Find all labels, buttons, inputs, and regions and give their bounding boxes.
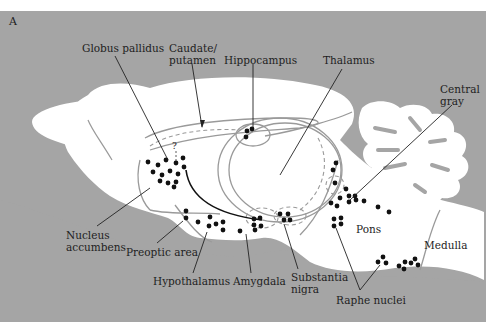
label-preoptic-area: Preoptic area xyxy=(126,246,198,258)
label-medulla: Medulla xyxy=(424,239,467,251)
label-central-gray: Central gray xyxy=(440,83,480,107)
label-question-mark: ? xyxy=(172,140,177,152)
label-pons: Pons xyxy=(356,223,381,235)
label-hippocampus: Hippocampus xyxy=(224,54,297,66)
label-amygdala: Amygdala xyxy=(233,275,286,287)
label-raphe-nuclei: Raphe nuclei xyxy=(336,294,406,306)
label-thalamus: Thalamus xyxy=(323,54,375,66)
label-globus-pallidus: Globus pallidus xyxy=(82,42,164,54)
label-nucleus-accumbens: Nucleus accumbens xyxy=(66,229,126,253)
label-substantia-nigra: Substantia nigra xyxy=(291,271,348,295)
panel-letter: A xyxy=(9,16,17,28)
label-hypothalamus: Hypothalamus xyxy=(153,275,230,287)
label-caudate-putamen: Caudate/ putamen xyxy=(169,42,217,66)
